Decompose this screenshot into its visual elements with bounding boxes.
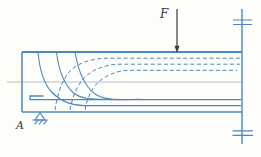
compression-trajectory-1: [38, 52, 241, 106]
section-break-line: [233, 9, 254, 144]
reinforcement-bar-with-hook: [30, 96, 241, 100]
tension-trajectory-2: [70, 64, 240, 110]
break-ticks-bottom: [233, 131, 254, 136]
force-arrow: [175, 9, 180, 53]
pinned-support: [33, 113, 48, 125]
support-label: A: [16, 120, 24, 131]
support-hatching: [35, 120, 48, 124]
beam-stress-trajectory-diagram: F A: [0, 0, 261, 157]
compression-trajectory-2: [57, 52, 113, 99]
force-label: F: [160, 8, 168, 20]
tension-trajectories: [55, 58, 240, 110]
support-triangle: [35, 113, 45, 120]
diagram-canvas: [0, 0, 261, 157]
tension-trajectory-1: [55, 58, 240, 110]
tension-trajectory-3: [85, 70, 237, 110]
compression-trajectories: [38, 52, 241, 106]
